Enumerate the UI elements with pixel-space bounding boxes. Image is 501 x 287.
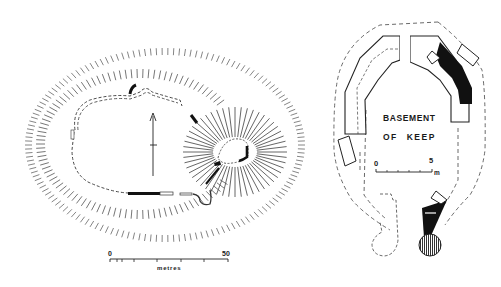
keep-title-line2: OF KEEP [383, 132, 436, 142]
site-scale-unit-label: metres [157, 265, 181, 271]
gate-wall [193, 190, 211, 205]
motte-wall-diagonal [206, 168, 219, 184]
keep-scale-start-label: 0 [374, 159, 378, 168]
keep-south-wedge-cap [431, 191, 447, 204]
bailey-edge-inner [78, 93, 178, 131]
wall-fragment-south-3 [180, 193, 192, 195]
wall-fragment-south-2 [160, 192, 173, 195]
site-plan: 0 50 metres [25, 48, 305, 271]
bailey-edge [72, 89, 182, 194]
keep-scale-end-label: 5 [429, 156, 433, 165]
wall-fragment-north [130, 85, 136, 94]
keep-south-west-projection [372, 194, 398, 256]
north-arrow-icon [150, 113, 157, 176]
keep-sw-buttress [338, 136, 356, 166]
keep-ne-projection [457, 44, 479, 66]
keep-round-tower [419, 234, 441, 256]
wall-fragment-east [191, 115, 197, 123]
keep-scale-bar: 0 5 m [374, 156, 440, 176]
keep-scale-unit-label: m [434, 169, 440, 176]
keep-north-doorway-gap [400, 34, 410, 64]
site-scale-bar: 0 50 metres [108, 250, 230, 271]
keep-south-wedge [422, 200, 447, 238]
wall-fragment-south [128, 192, 160, 195]
west-wall-marker [71, 130, 74, 139]
keep-plan: BASEMENT OF KEEP 0 5 m [334, 22, 485, 256]
site-scale-end-label: 50 [222, 250, 230, 257]
diagram-canvas: 0 50 metres BASEMENT OF KEEP [0, 0, 501, 287]
site-scale-start-label: 0 [108, 250, 112, 257]
keep-title-line1: BASEMENT [383, 113, 436, 123]
